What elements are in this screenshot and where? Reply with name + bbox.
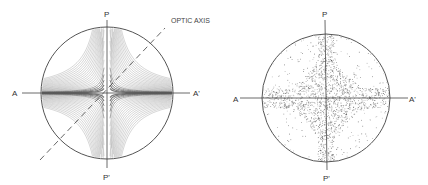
left-label-p-prime: P' (103, 173, 110, 182)
right-label-a-prime: A' (409, 95, 416, 104)
left-label-p: P (104, 10, 109, 19)
left-figure: P P' A A' OPTIC AXIS (12, 10, 210, 182)
right-label-a: A (233, 95, 239, 104)
left-label-a-prime: A' (193, 89, 200, 98)
right-label-p-prime: P' (323, 174, 330, 183)
right-figure: P P' A A' (233, 10, 416, 183)
right-label-p: P (322, 10, 327, 19)
diagram-canvas: P P' A A' OPTIC AXIS P P' A A' (0, 0, 428, 185)
optic-axis-label: OPTIC AXIS (171, 17, 210, 24)
left-label-a: A (12, 89, 18, 98)
